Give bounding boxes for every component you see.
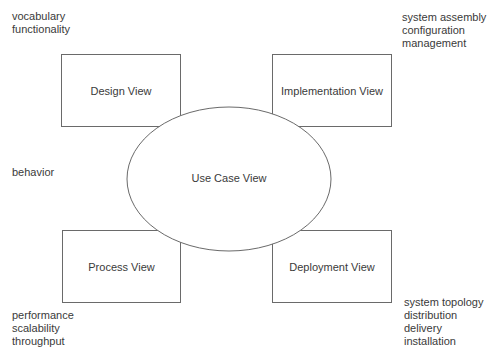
deployment-view-box: Deployment View [272, 230, 392, 303]
implementation-view-concerns: system assembly configuration management [402, 11, 486, 50]
concern-system-assembly: system assembly [402, 11, 486, 24]
use-case-view-concerns: behavior [12, 166, 54, 179]
concern-scalability: scalability [12, 322, 74, 335]
process-view-box: Process View [62, 230, 181, 303]
concern-distribution: distribution [404, 309, 483, 322]
concern-configuration: configuration [402, 24, 486, 37]
use-case-view-label: Use Case View [127, 172, 331, 184]
concern-system-topology: system topology [404, 296, 483, 309]
concern-delivery: delivery [404, 322, 483, 335]
concern-functionality: functionality [12, 23, 70, 36]
concern-throughput: throughput [12, 335, 74, 348]
concern-behavior: behavior [12, 166, 54, 179]
deployment-view-label: Deployment View [289, 261, 374, 273]
implementation-view-label: Implementation View [281, 85, 383, 97]
process-view-concerns: performance scalability throughput [12, 309, 74, 348]
concern-installation: installation [404, 335, 483, 348]
design-view-concerns: vocabulary functionality [12, 10, 70, 36]
deployment-view-concerns: system topology distribution delivery in… [404, 296, 483, 348]
design-view-label: Design View [91, 85, 152, 97]
concern-performance: performance [12, 309, 74, 322]
design-view-box: Design View [61, 54, 181, 127]
process-view-label: Process View [88, 261, 154, 273]
concern-vocabulary: vocabulary [12, 10, 70, 23]
concern-management: management [402, 37, 486, 50]
architecture-views-diagram: Design View Implementation View Process … [0, 0, 492, 356]
implementation-view-box: Implementation View [272, 54, 392, 127]
